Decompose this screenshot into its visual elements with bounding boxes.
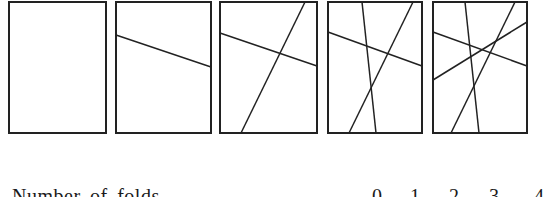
fold-line-2 [241, 2, 305, 133]
folds-value-4: 4 [534, 186, 544, 197]
panel-4-folds [433, 2, 527, 133]
paper-folding-diagram [0, 0, 545, 197]
fold-line-1 [328, 32, 422, 66]
panel-3-folds [328, 2, 422, 133]
panel-0-folds [9, 2, 106, 133]
fold-line-3 [362, 2, 376, 133]
folds-value-0: 0 [372, 186, 382, 197]
paper-outline [116, 2, 211, 133]
panel-1-folds [116, 2, 211, 133]
panel-2-folds [220, 2, 317, 133]
fold-line-2 [451, 2, 515, 133]
fold-line-1 [116, 35, 211, 67]
paper-outline [328, 2, 422, 133]
folds-value-3: 3 [489, 186, 499, 197]
paper-outline [433, 2, 527, 133]
folds-caption: Number of folds [12, 186, 160, 197]
fold-line-1 [433, 32, 527, 66]
paper-outline [9, 2, 106, 133]
fold-line-4 [433, 22, 527, 80]
fold-line-1 [220, 33, 317, 66]
fold-line-3 [465, 2, 479, 133]
fold-line-2 [349, 2, 413, 133]
folds-value-2: 2 [449, 186, 459, 197]
folds-value-1: 1 [410, 186, 420, 197]
paper-outline [220, 2, 317, 133]
